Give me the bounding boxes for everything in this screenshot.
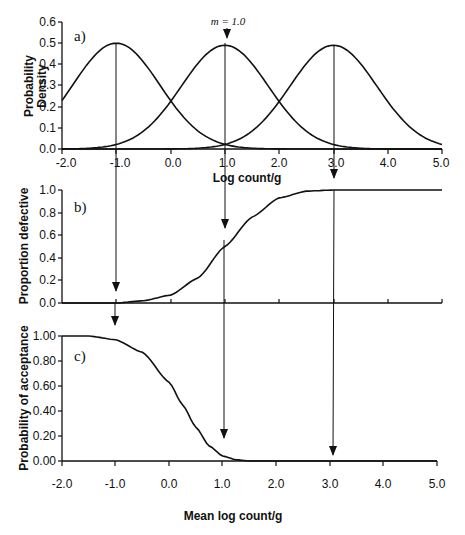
svg-text:Density: Density [35,64,49,108]
svg-text:1.0: 1.0 [39,183,56,197]
m-annotation: m = 1.0 [211,15,246,27]
b-y-axis-label: Proportion defective [17,187,31,304]
svg-text:2.0: 2.0 [268,477,285,491]
svg-text:5.0: 5.0 [429,477,446,491]
a-xtick: -1.0 [110,156,131,170]
a-ytick: 0.1 [39,121,56,135]
a-x-axis-label: Log count/g [213,171,282,185]
arrow-mean-3-to-c [333,190,334,455]
figure: 0.0 0.1 0.2 0.3 0.4 0.5 0.6 -2.0 -1.0 0.… [0,0,465,535]
panel-b-label: b) [74,199,87,216]
svg-text:1.00: 1.00 [33,329,57,343]
a-xtick: 2.0 [271,156,288,170]
a-xtick: 1.0 [219,156,236,170]
svg-text:4.0: 4.0 [375,477,392,491]
svg-text:0.6: 0.6 [39,228,56,242]
svg-text:-2.0: -2.0 [52,477,73,491]
svg-text:0.8: 0.8 [39,206,56,220]
a-xtick: 5.0 [433,156,450,170]
svg-text:0.60: 0.60 [33,379,57,393]
panel-c-label: c) [74,348,86,365]
svg-text:0.0: 0.0 [161,477,178,491]
panel-a: 0.0 0.1 0.2 0.3 0.4 0.5 0.6 -2.0 -1.0 0.… [22,15,450,185]
svg-text:-1.0: -1.0 [105,477,126,491]
c-y-tick-labels: 0.00 0.20 0.40 0.60 0.80 1.00 [33,329,57,468]
b-y-tick-labels: 0.0 0.2 0.4 0.6 0.8 1.0 [39,183,56,310]
svg-text:1.0: 1.0 [214,477,231,491]
a-ytick: 0.6 [39,15,56,29]
svg-text:Probability: Probability [22,55,36,117]
c-x-tick-labels: -2.0 -1.0 0.0 1.0 2.0 3.0 4.0 5.0 [52,477,446,491]
a-x-tick-labels: -2.0 -1.0 0.0 1.0 2.0 3.0 4.0 5.0 [56,156,450,170]
svg-text:0.4: 0.4 [39,251,56,265]
svg-text:0.0: 0.0 [39,296,56,310]
a-xtick: -2.0 [56,156,77,170]
proportion-defective-curve [62,190,442,303]
density-curve-mean-3 [62,45,442,149]
a-ytick: 0.0 [39,142,56,156]
a-xtick: 4.0 [380,156,397,170]
panel-b: 0.0 0.2 0.4 0.6 0.8 1.0 Proportion defec… [17,183,442,310]
svg-text:0.40: 0.40 [33,404,57,418]
svg-text:0.20: 0.20 [33,429,57,443]
panel-c: 0.00 0.20 0.40 0.60 0.80 1.00 -2.0 -1.0 … [17,325,446,523]
connector-arrows [115,43,334,455]
c-x-axis-label: Mean log count/g [184,509,283,523]
svg-text:3.0: 3.0 [322,477,339,491]
density-curve-mean-minus1 [62,43,442,149]
svg-text:0.2: 0.2 [39,273,56,287]
a-xtick: 3.0 [328,156,345,170]
acceptance-probability-curve [62,336,437,461]
svg-text:0.80: 0.80 [33,354,57,368]
c-y-axis-label: Probability of acceptance [17,325,31,471]
a-xtick: 0.0 [165,156,182,170]
a-ytick: 0.5 [39,36,56,50]
panel-a-label: a) [74,28,86,45]
svg-text:0.00: 0.00 [33,454,57,468]
